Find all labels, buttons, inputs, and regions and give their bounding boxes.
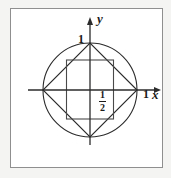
fraction-one-half: 1 2	[99, 90, 106, 113]
half-fraction-label: 1 2	[99, 90, 106, 113]
y-axis-name-label: y	[97, 12, 103, 25]
fraction-denominator: 2	[99, 103, 106, 114]
x-axis-name-label: x	[152, 88, 159, 101]
y-axis-arrowhead-icon	[87, 17, 93, 25]
figure-screenshot: y x 1 1 1 2	[0, 0, 171, 178]
y-axis-tick-label-one: 1	[78, 33, 84, 45]
fraction-numerator: 1	[99, 90, 106, 101]
x-axis-tick-label-one: 1	[143, 88, 149, 100]
